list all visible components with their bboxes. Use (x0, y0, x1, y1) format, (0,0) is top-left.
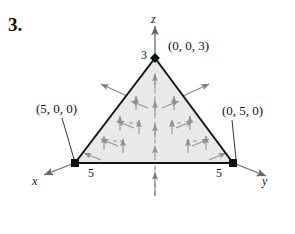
vertex-marker-left (71, 159, 79, 167)
problem-number: 3. (8, 14, 22, 36)
label-right-point: (0, 5, 0) (222, 103, 263, 119)
vertex-marker-right (229, 159, 237, 167)
leader-line-right (232, 120, 236, 159)
plane-region-fill (75, 58, 233, 163)
edge-normal-left (101, 84, 127, 96)
axis-y-label: y (262, 174, 267, 189)
label-x-intercept-tick: 5 (88, 166, 94, 181)
label-z-intercept-tick: 3 (141, 48, 147, 63)
label-left-point: (5, 0, 0) (36, 101, 77, 117)
axis-x-label: x (32, 174, 37, 189)
axis-z-label: z (151, 12, 156, 27)
label-apex-point: (0, 0, 3) (168, 38, 209, 54)
figure-page: 3. (0, 0, 3) (5, 0, 0) (0, 5, 0) 3 5 5 x… (0, 0, 295, 234)
leader-line-left (62, 118, 74, 159)
label-y-intercept-tick: 5 (216, 166, 222, 181)
edge-normal-right (183, 84, 209, 96)
